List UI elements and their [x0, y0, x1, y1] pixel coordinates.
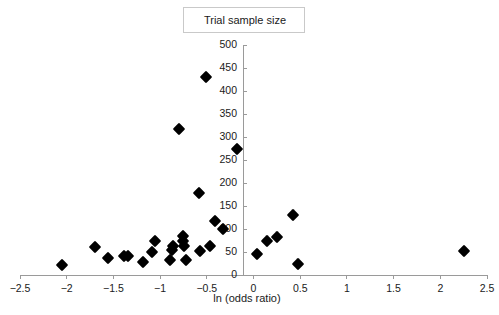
- y-tick-label: 300: [207, 130, 237, 142]
- y-tick-label: 150: [207, 199, 237, 211]
- y-tick-label: 250: [207, 153, 237, 165]
- y-tick-label: 500: [207, 38, 237, 50]
- y-tick-label: 350: [207, 107, 237, 119]
- y-tick-label: 200: [207, 176, 237, 188]
- x-tick-label: −1.5: [93, 282, 133, 294]
- x-tick-label: 2: [420, 282, 460, 294]
- x-tick-label: −2.5: [0, 282, 40, 294]
- x-tick-label: 1.5: [374, 282, 414, 294]
- y-tick-label: 0: [207, 268, 237, 280]
- x-tick-label: −2: [47, 282, 87, 294]
- y-tick-label: 450: [207, 61, 237, 73]
- x-tick-label: 2.5: [467, 282, 499, 294]
- y-tick-label: 400: [207, 84, 237, 96]
- x-axis-title: ln (odds ratio): [147, 292, 347, 304]
